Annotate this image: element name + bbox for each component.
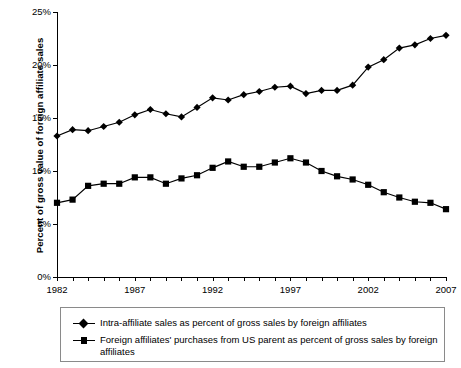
data-point-marker	[287, 155, 293, 161]
data-point-marker	[442, 32, 449, 39]
data-point-marker	[193, 104, 200, 111]
data-point-marker	[272, 159, 278, 165]
data-point-marker	[287, 83, 294, 90]
plot-area: 0%5%10%15%20%25% 19821987199219972002200…	[57, 12, 446, 277]
data-point-marker	[210, 165, 216, 171]
y-axis-title: Percent of gross value of foreign affili…	[34, 11, 45, 281]
y-axis-tick-label: 10%	[15, 165, 51, 176]
data-point-marker	[412, 199, 418, 205]
x-axis-tick	[446, 277, 447, 281]
data-point-marker	[53, 132, 60, 139]
data-point-marker	[333, 87, 340, 94]
data-point-marker	[178, 175, 184, 181]
data-point-marker	[411, 41, 418, 48]
data-point-marker	[131, 111, 138, 118]
data-point-marker	[350, 176, 356, 182]
diamond-marker-icon	[73, 317, 95, 329]
data-point-marker	[443, 206, 449, 212]
data-point-marker	[116, 119, 123, 126]
x-axis-tick-label: 1997	[270, 284, 310, 295]
data-point-marker	[427, 35, 434, 42]
y-axis-tick-label: 25%	[15, 6, 51, 17]
data-point-marker	[100, 123, 107, 130]
legend-item-foreign-affiliate-purchases: Foreign affiliates' purchases from US pa…	[73, 334, 444, 358]
data-point-marker	[147, 174, 153, 180]
data-point-marker	[178, 113, 185, 120]
series-line	[57, 158, 446, 209]
series-square	[54, 155, 449, 212]
y-axis-tick-label: 20%	[15, 59, 51, 70]
data-point-marker	[163, 181, 169, 187]
data-point-marker	[271, 84, 278, 91]
y-axis-tick-label: 5%	[15, 218, 51, 229]
series-line	[57, 35, 446, 136]
data-point-marker	[85, 127, 92, 134]
data-point-marker	[132, 174, 138, 180]
data-point-marker	[225, 96, 232, 103]
chart-legend: Intra-affiliate sales as percent of gros…	[60, 307, 445, 362]
data-point-marker	[69, 197, 75, 203]
legend-label: Intra-affiliate sales as percent of gros…	[100, 317, 367, 329]
data-point-marker	[396, 194, 402, 200]
x-axis-tick-label: 1982	[37, 284, 77, 295]
data-point-marker	[194, 172, 200, 178]
data-point-marker	[85, 183, 91, 189]
data-point-marker	[69, 126, 76, 133]
square-marker-icon	[73, 334, 95, 346]
data-point-marker	[302, 90, 309, 97]
data-point-marker	[318, 87, 325, 94]
data-point-marker	[101, 181, 107, 187]
y-axis-tick-label: 15%	[15, 112, 51, 123]
data-point-marker	[256, 164, 262, 170]
data-point-marker	[54, 200, 60, 206]
x-axis-tick-label: 1992	[193, 284, 233, 295]
y-axis-tick-label: 0%	[15, 271, 51, 282]
data-point-marker	[116, 181, 122, 187]
data-point-marker	[256, 88, 263, 95]
data-point-marker	[162, 110, 169, 117]
data-point-marker	[241, 164, 247, 170]
x-axis-tick-label: 2007	[426, 284, 461, 295]
x-axis-tick-label: 1987	[115, 284, 155, 295]
legend-item-intra-affiliate-sales: Intra-affiliate sales as percent of gros…	[73, 317, 367, 329]
data-point-marker	[225, 158, 231, 164]
data-point-marker	[318, 168, 324, 174]
data-point-marker	[334, 173, 340, 179]
legend-label: Foreign affiliates' purchases from US pa…	[100, 334, 444, 358]
series-diamond	[53, 32, 449, 140]
data-point-marker	[240, 91, 247, 98]
data-point-marker	[147, 106, 154, 113]
x-axis-tick-label: 2002	[348, 284, 388, 295]
data-point-marker	[209, 94, 216, 101]
data-point-marker	[427, 200, 433, 206]
data-point-marker	[303, 159, 309, 165]
data-point-marker	[365, 182, 371, 188]
data-point-marker	[381, 189, 387, 195]
data-series-layer	[57, 12, 446, 278]
